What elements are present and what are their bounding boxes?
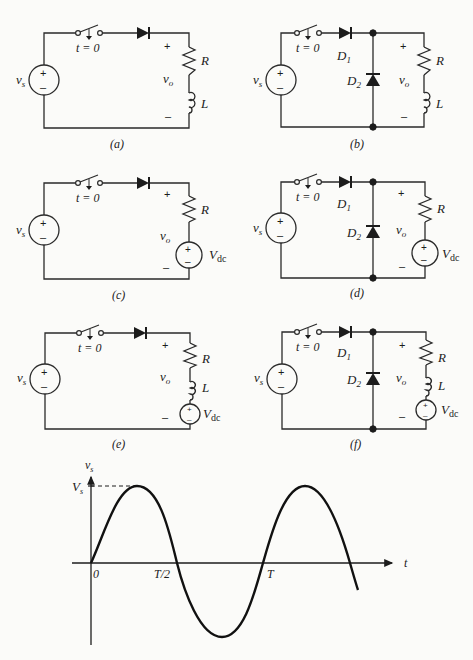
inductor-icon xyxy=(190,382,195,401)
svg-text:vs: vs xyxy=(253,72,263,89)
svg-text:t = 0: t = 0 xyxy=(296,190,319,204)
svg-text:vs: vs xyxy=(253,220,263,237)
diode-d2-icon xyxy=(366,226,380,238)
diode-icon xyxy=(137,177,149,189)
caption-b: (b) xyxy=(350,137,364,151)
svg-text:+: + xyxy=(277,215,283,227)
junction-dot xyxy=(370,426,376,432)
svg-text:vo: vo xyxy=(396,370,407,387)
resistor-icon xyxy=(420,340,432,365)
svg-text:–: – xyxy=(401,110,408,122)
svg-text:L: L xyxy=(437,378,445,393)
caption-d: (d) xyxy=(350,286,364,300)
svg-text:vs: vs xyxy=(254,370,264,387)
diode-d2-icon xyxy=(366,373,380,385)
caption-e: (e) xyxy=(112,437,125,451)
svg-text:t = 0: t = 0 xyxy=(296,340,319,354)
svg-text:Vdc: Vdc xyxy=(441,402,459,419)
junction-dot xyxy=(370,30,376,36)
svg-text:D1: D1 xyxy=(336,48,351,65)
svg-text:R: R xyxy=(437,350,446,365)
svg-text:–: – xyxy=(40,231,47,243)
svg-text:t = 0: t = 0 xyxy=(76,41,99,55)
svg-text:R: R xyxy=(201,351,210,366)
junction-dot xyxy=(370,329,376,335)
svg-text:vs: vs xyxy=(85,458,93,474)
svg-text:+: + xyxy=(187,405,192,414)
circuit-b: + – vs t = 0 D1 D2 + vo – R L (b) xyxy=(253,25,444,151)
switch-icon xyxy=(295,174,322,189)
svg-text:D1: D1 xyxy=(336,196,351,213)
svg-text:Vdc: Vdc xyxy=(203,406,221,423)
circuit-c: + – + – vs t = 0 + vo – R Vdc (c) xyxy=(16,175,227,302)
svg-text:+: + xyxy=(398,187,404,199)
caption-f: (f) xyxy=(350,437,361,451)
svg-text:–: – xyxy=(277,229,284,241)
svg-text:t = 0: t = 0 xyxy=(296,41,319,55)
svg-text:+: + xyxy=(41,366,47,378)
svg-text:Vdc: Vdc xyxy=(209,247,227,264)
switch-icon xyxy=(295,25,322,40)
svg-text:Vs: Vs xyxy=(72,479,83,496)
svg-text:vo: vo xyxy=(163,71,174,88)
svg-text:–: – xyxy=(399,260,406,272)
resistor-icon xyxy=(183,47,195,75)
junction-dot xyxy=(370,275,376,281)
svg-text:+: + xyxy=(399,339,405,351)
diode-d1-icon xyxy=(339,27,351,39)
inductor-icon xyxy=(424,93,430,114)
svg-text:+: + xyxy=(421,242,427,253)
svg-text:+: + xyxy=(423,401,428,410)
svg-text:D2: D2 xyxy=(346,225,361,242)
svg-text:–: – xyxy=(40,81,47,93)
svg-text:L: L xyxy=(200,96,208,111)
svg-text:–: – xyxy=(163,261,170,273)
tick-t: T xyxy=(267,567,275,581)
switch-icon xyxy=(76,25,103,40)
svg-text:L: L xyxy=(201,380,209,395)
svg-text:D2: D2 xyxy=(346,372,361,389)
circuit-d: + – + – vs t = 0 D1 D2 + vo – R Vdc (d) xyxy=(253,174,460,300)
source-voltage-waveform: vs Vs 0 T/2 T t xyxy=(72,458,408,645)
x-axis-label: t xyxy=(404,556,408,570)
svg-text:–: – xyxy=(278,380,285,392)
junction-dot xyxy=(370,124,376,130)
svg-text:R: R xyxy=(435,53,444,68)
svg-text:L: L xyxy=(435,96,443,111)
svg-text:+: + xyxy=(400,40,406,52)
svg-text:+: + xyxy=(164,188,170,200)
tick-t-half: T/2 xyxy=(154,567,170,581)
svg-text:–: – xyxy=(187,415,192,424)
resistor-icon xyxy=(419,196,431,222)
svg-text:+: + xyxy=(40,67,46,79)
svg-text:–: – xyxy=(185,256,191,267)
svg-text:R: R xyxy=(436,201,445,216)
svg-text:–: – xyxy=(277,81,284,93)
svg-text:R: R xyxy=(200,53,209,68)
svg-text:t = 0: t = 0 xyxy=(78,341,101,355)
resistor-icon xyxy=(418,47,430,75)
circuit-a: + – vs t = 0 + vo – R L (a) xyxy=(16,25,209,151)
sine-curve xyxy=(91,486,358,637)
resistor-icon xyxy=(184,343,196,368)
switch-icon xyxy=(77,325,104,340)
svg-text:Vdc: Vdc xyxy=(442,246,460,263)
switch-icon xyxy=(76,175,103,190)
caption-c: (c) xyxy=(112,288,125,302)
diode-d2-icon xyxy=(366,74,380,86)
inductor-icon xyxy=(426,378,431,397)
junction-dot xyxy=(370,179,376,185)
svg-text:+: + xyxy=(278,366,284,378)
svg-text:–: – xyxy=(423,411,428,420)
svg-text:vs: vs xyxy=(16,222,26,239)
svg-text:t = 0: t = 0 xyxy=(76,191,99,205)
caption-a: (a) xyxy=(110,137,124,151)
svg-text:D2: D2 xyxy=(346,73,361,90)
diode-d1-icon xyxy=(339,176,351,188)
svg-text:–: – xyxy=(162,411,169,423)
svg-text:+: + xyxy=(40,217,46,229)
svg-text:+: + xyxy=(277,67,283,79)
svg-text:–: – xyxy=(165,110,172,122)
svg-text:–: – xyxy=(399,410,406,422)
diode-d1-icon xyxy=(339,326,351,338)
